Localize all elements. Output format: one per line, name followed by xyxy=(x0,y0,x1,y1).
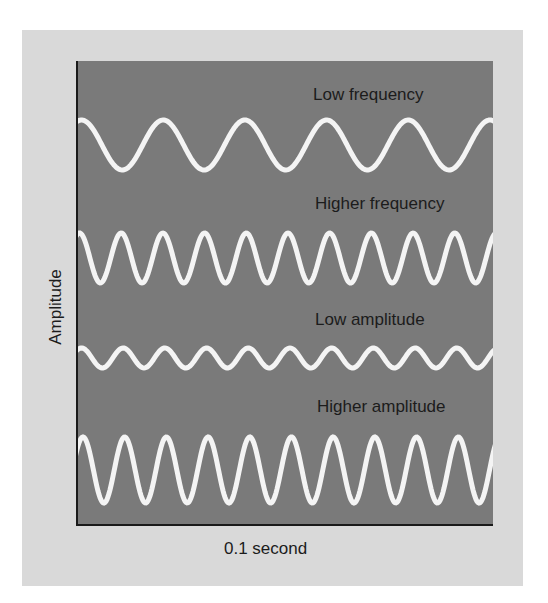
low-amplitude-label: Low amplitude xyxy=(315,311,425,328)
higher-frequency-label: Higher frequency xyxy=(315,195,444,212)
higher-amplitude-label: Higher amplitude xyxy=(317,398,446,415)
higher-frequency-wave xyxy=(76,233,493,283)
low-frequency-label: Low frequency xyxy=(313,86,424,103)
y-axis-label: Amplitude xyxy=(47,269,64,345)
x-axis-label: 0.1 second xyxy=(224,540,307,557)
plot-area xyxy=(76,61,493,526)
higher-amplitude-wave xyxy=(76,437,493,503)
low-frequency-wave xyxy=(76,120,493,170)
low-amplitude-wave xyxy=(76,348,493,368)
